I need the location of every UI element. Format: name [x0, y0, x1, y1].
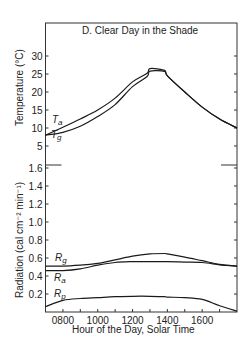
series-label-ta: Ta	[52, 114, 63, 127]
y-tick-label: 30	[31, 51, 43, 62]
y-tick-label: 1.4	[29, 181, 43, 192]
series-line-rg	[46, 253, 238, 266]
y-axis-title-radiation: Radiation (cal cm⁻² min⁻¹)	[14, 182, 25, 298]
series-lines	[46, 68, 238, 311]
y-tick-label: 20	[31, 87, 43, 98]
plot-frame	[46, 23, 238, 312]
y-tick-label: 5	[37, 141, 43, 152]
series-label-rg: Rg	[55, 252, 67, 265]
axis-ticks	[46, 56, 238, 312]
chart: 510152025300.20.40.60.81.01.21.41.608001…	[0, 0, 248, 359]
y-tick-label: 0.4	[29, 271, 43, 282]
series-line-tg	[46, 71, 238, 136]
y-tick-label: 0.8	[29, 235, 43, 246]
y-tick-label: 1.0	[29, 217, 43, 228]
y-tick-label: 1.6	[29, 163, 43, 174]
chart-title: D. Clear Day in the Shade	[82, 25, 199, 36]
series-line-ta	[46, 68, 238, 135]
x-axis-title: Hour of the Day, Solar Time	[72, 324, 195, 335]
y-tick-label: 10	[31, 123, 43, 134]
series-line-rp	[46, 296, 238, 311]
y-tick-label: 15	[31, 105, 43, 116]
y-tick-label: 25	[31, 69, 43, 80]
series-label-tg: Tg	[51, 129, 62, 142]
series-label-rp: Rp	[54, 288, 66, 301]
y-tick-label: 0.6	[29, 253, 43, 264]
series-label-ra: Ra	[54, 272, 66, 285]
y-axis-title-temperature: Temperature (°C)	[14, 49, 25, 126]
y-tick-label: 1.2	[29, 199, 43, 210]
y-tick-label: 0.2	[29, 289, 43, 300]
